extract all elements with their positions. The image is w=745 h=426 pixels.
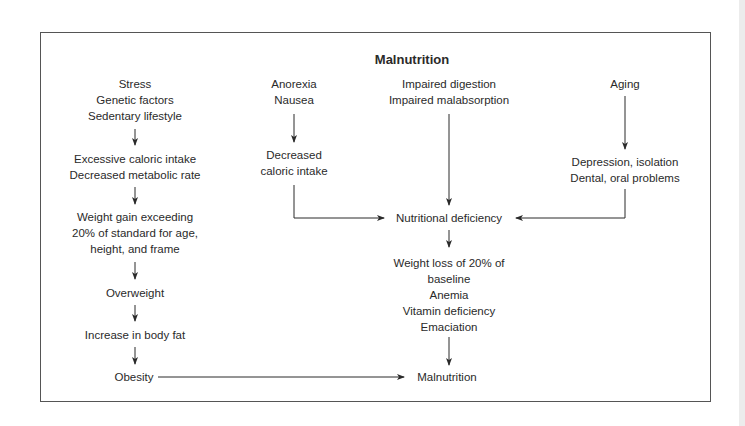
connector-arrows [0, 0, 745, 426]
